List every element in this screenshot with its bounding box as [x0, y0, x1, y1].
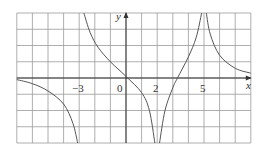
axes: [17, 12, 252, 143]
curve-branch-1: [17, 80, 78, 143]
graph-plot: y x −3 0 2 5: [0, 0, 263, 155]
x-axis-label: x: [245, 79, 251, 91]
x-tick-5: 5: [200, 82, 206, 94]
x-tick-0: 0: [117, 82, 123, 94]
x-tick-minus3: −3: [72, 82, 84, 94]
curve-branch-4: [206, 13, 250, 73]
x-tick-2: 2: [153, 82, 159, 94]
y-axis-label: y: [115, 10, 121, 22]
